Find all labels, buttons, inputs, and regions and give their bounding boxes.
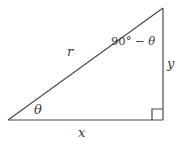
angle-complement-variable: θ xyxy=(148,34,155,48)
angle-complement-label: 90° − θ xyxy=(111,36,155,48)
right-triangle-figure: r x y θ 90° − θ xyxy=(0,0,182,145)
triangle-drawing xyxy=(0,0,182,145)
triangle-hypotenuse-line xyxy=(8,8,163,120)
base-label: x xyxy=(78,126,85,139)
angle-theta-label: θ xyxy=(34,103,42,116)
right-angle-marker-icon xyxy=(152,109,163,120)
angle-complement-degrees: 90° − xyxy=(111,34,148,48)
hypotenuse-label: r xyxy=(67,45,73,58)
vertical-side-label: y xyxy=(167,57,174,70)
